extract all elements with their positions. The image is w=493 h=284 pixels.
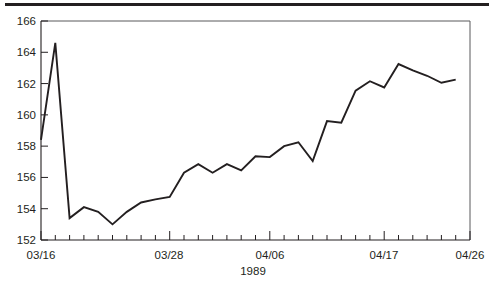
x-axis-label-2: 04/06 — [256, 249, 285, 261]
y-axis-labels: 166 164 162 160 158 156 154 152 — [17, 15, 37, 246]
chart-page: 166 164 162 160 158 156 154 152 03/16 03… — [0, 0, 493, 284]
x-axis-label-3: 04/17 — [370, 249, 399, 261]
y-axis-label-1: 164 — [17, 46, 37, 58]
y-axis-label-0: 166 — [17, 15, 36, 27]
y-axis-label-3: 160 — [17, 109, 36, 121]
line-chart: 166 164 162 160 158 156 154 152 03/16 03… — [0, 0, 493, 284]
x-axis-labels: 03/16 03/28 04/06 04/17 04/26 — [27, 249, 485, 261]
y-axis-label-7: 152 — [17, 234, 36, 246]
y-axis-label-5: 156 — [17, 171, 36, 183]
data-series-line — [41, 43, 456, 224]
y-axis-label-6: 154 — [17, 203, 37, 215]
chart-svg: 166 164 162 160 158 156 154 152 03/16 03… — [0, 0, 493, 284]
y-axis-label-4: 158 — [17, 140, 36, 152]
plot-frame — [41, 21, 470, 240]
x-axis-label-4: 04/26 — [456, 249, 485, 261]
y-axis-label-2: 162 — [17, 78, 36, 90]
x-axis-ticks — [41, 231, 470, 240]
x-axis-label-0: 03/16 — [27, 249, 56, 261]
x-axis-title: 1989 — [240, 265, 266, 277]
x-axis-label-1: 03/28 — [155, 249, 184, 261]
